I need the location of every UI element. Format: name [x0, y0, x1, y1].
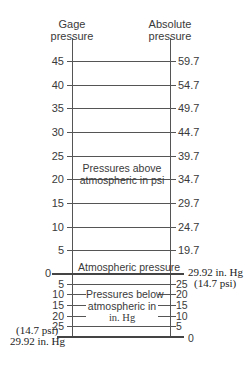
absolute-tick-label: 19.7: [178, 245, 199, 256]
vacuum-note-left: (14.7 psi) 29.92 in. Hg: [10, 325, 65, 347]
caption-line: in. Hg: [86, 312, 158, 324]
header-line: Absolute: [145, 18, 195, 30]
gage-tick-label: 15: [40, 198, 64, 209]
absolute-tick-label: 59.7: [178, 56, 199, 67]
vacuum-tick-label: 15: [40, 300, 64, 310]
tick-line: [67, 132, 176, 133]
vacuum-tick-label: 10: [40, 289, 64, 299]
absolute-tick-label: 39.7: [178, 151, 199, 162]
tick-line: [67, 156, 176, 157]
zero-label: 0: [45, 268, 51, 279]
caption-line: atmospheric in: [86, 300, 158, 312]
gage-tick-label: 35: [40, 103, 64, 114]
note-line: (14.7 psi): [188, 278, 243, 289]
absolute-zero-line: [57, 336, 184, 338]
atmospheric-caption: Atmospheric pressure: [78, 261, 166, 273]
gage-tick-label: 40: [40, 80, 64, 91]
absolute-tick-label: 34.7: [178, 174, 199, 185]
tick-line: [67, 326, 176, 327]
header-line: Gage: [50, 18, 94, 30]
gage-axis-line: [72, 38, 73, 336]
gage-tick-label: 45: [40, 56, 64, 67]
note-line: 29.92 in. Hg: [10, 336, 65, 347]
gage-tick-label: 25: [40, 151, 64, 162]
caption-pressures-below: Pressures below atmospheric in in. Hg: [86, 288, 158, 324]
gage-tick-label: 20: [40, 174, 64, 185]
absolute-hg-label: 5: [176, 321, 182, 331]
tick-line: [67, 227, 176, 228]
tick-line: [67, 203, 176, 204]
gage-tick-label: 10: [40, 222, 64, 233]
absolute-tick-label: 49.7: [178, 103, 199, 114]
caption-pressures-above: Pressures above atmospheric in psi: [78, 162, 166, 186]
tick-line: [67, 284, 176, 285]
tick-line: [67, 108, 176, 109]
tick-line: [67, 61, 176, 62]
absolute-hg-label: 20: [176, 289, 188, 299]
absolute-axis-line: [170, 38, 171, 336]
tick-line: [67, 250, 176, 251]
caption-line: Pressures above: [78, 162, 166, 174]
absolute-tick-label: 24.7: [178, 222, 199, 233]
absolute-hg-label: 15: [176, 300, 188, 310]
absolute-tick-label: 29.7: [178, 198, 199, 209]
tick-line: [67, 85, 176, 86]
atm-note-right: 29.92 in. Hg (14.7 psi): [188, 267, 243, 289]
caption-line: atmospheric in psi: [78, 174, 166, 186]
absolute-zero-label: 0: [188, 333, 194, 343]
absolute-tick-label: 44.7: [178, 127, 199, 138]
caption-line: Pressures below: [86, 288, 158, 300]
atmospheric-line: [52, 273, 184, 275]
absolute-tick-label: 54.7: [178, 80, 199, 91]
gage-tick-label: 5: [40, 245, 64, 256]
gage-tick-label: 30: [40, 127, 64, 138]
